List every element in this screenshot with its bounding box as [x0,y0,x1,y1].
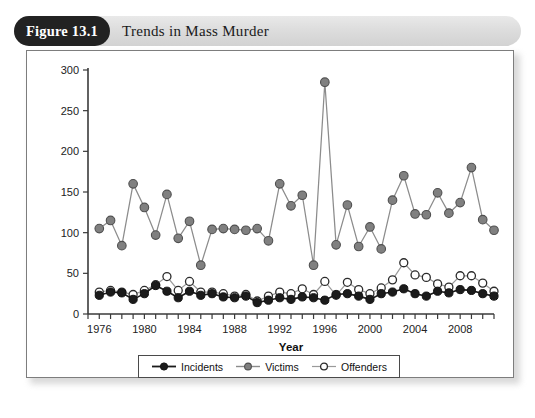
data-point-incidents [287,295,295,303]
data-point-incidents [343,290,351,298]
data-point-victims [242,226,251,235]
legend-label-incidents: Incidents [181,361,223,373]
legend-item-offenders: Offenders [311,361,387,373]
data-point-offenders [186,277,194,285]
data-point-offenders [343,278,351,286]
data-point-incidents [264,296,272,304]
data-point-victims [478,215,487,224]
data-point-incidents [174,294,182,302]
data-point-incidents [366,295,374,303]
data-point-offenders [298,285,306,293]
data-point-victims [422,210,431,219]
data-point-victims [467,163,476,172]
figure-title: Trends in Mass Murder [122,16,269,46]
data-point-offenders [411,271,419,279]
data-point-incidents [208,290,216,298]
data-point-offenders [422,273,430,281]
data-point-victims [321,78,330,87]
x-axis-tick-label: 1992 [267,323,291,335]
data-point-incidents [377,290,385,298]
data-point-incidents [129,295,137,303]
data-point-incidents [95,291,103,299]
x-axis-tick-label: 2004 [403,323,427,335]
data-point-victims [174,234,183,243]
data-point-victims [490,226,499,235]
data-point-incidents [445,289,453,297]
y-axis-tick-label: 200 [61,145,79,157]
data-point-incidents [400,285,408,293]
legend-label-offenders: Offenders [341,361,387,373]
data-point-victims [163,190,172,199]
line-chart: 0501001502002503001976198019841988199219… [26,50,514,378]
data-point-victims [445,209,454,218]
legend-marker-offenders [311,361,337,372]
y-axis-tick-label: 300 [61,64,79,76]
data-point-victims [219,224,228,233]
data-point-victims [287,202,296,211]
data-point-victims [253,224,262,233]
legend-marker-incidents [151,361,177,372]
data-point-incidents [479,290,487,298]
data-point-offenders [163,273,171,281]
data-point-incidents [219,293,227,301]
data-point-victims [377,245,386,254]
data-point-offenders [479,279,487,287]
data-point-victims [275,180,284,189]
data-point-victims [399,171,408,180]
data-point-incidents [456,286,464,294]
data-point-incidents [118,289,126,297]
data-point-incidents [242,292,250,300]
data-point-victims [264,237,273,246]
figure-number-badge: Figure 13.1 [14,16,110,46]
data-point-incidents [106,288,114,296]
legend-item-incidents: Incidents [151,361,223,373]
data-point-victims [95,224,104,233]
y-axis-tick-label: 50 [67,267,79,279]
data-point-incidents [467,286,475,294]
data-point-victims [309,261,318,270]
data-point-victims [343,201,352,210]
figure-container: Figure 13.1 Trends in Mass Murder 050100… [0,0,535,418]
x-axis-tick-label: 2008 [448,323,472,335]
data-point-victims [433,189,442,198]
y-axis-tick-label: 150 [61,186,79,198]
y-axis-tick-label: 100 [61,227,79,239]
data-point-victims [411,210,420,219]
data-point-incidents [140,290,148,298]
data-point-incidents [388,288,396,296]
data-point-victims [354,242,363,251]
data-point-incidents [276,294,284,302]
data-point-offenders [321,277,329,285]
data-point-incidents [355,292,363,300]
x-axis-tick-label: 2000 [358,323,382,335]
y-axis-tick-label: 250 [61,105,79,117]
legend-item-victims: Victims [235,361,299,373]
data-point-victims [332,241,341,250]
data-point-incidents [152,281,160,289]
x-axis-tick-label: 1988 [222,323,246,335]
data-point-victims [151,231,160,240]
data-point-victims [118,241,127,250]
data-point-offenders [467,272,475,280]
data-point-incidents [422,292,430,300]
chart-legend: Incidents Victims Offenders [138,355,400,378]
data-point-victims [230,225,239,234]
legend-marker-victims [235,361,261,372]
x-axis-title: Year [279,341,304,353]
data-point-incidents [185,287,193,295]
plot-area: 0501001502002503001976198019841988199219… [26,50,514,378]
data-point-offenders [389,276,397,284]
data-point-incidents [253,299,261,307]
data-point-incidents [411,290,419,298]
series-victims [95,78,498,270]
data-point-incidents [490,292,498,300]
data-point-incidents [321,296,329,304]
data-point-incidents [332,290,340,298]
data-point-victims [196,261,205,270]
data-point-victims [366,223,375,232]
data-point-victims [185,217,194,226]
x-axis-tick-label: 1980 [132,323,156,335]
x-axis-tick-label: 1996 [313,323,337,335]
x-axis-tick-label: 1984 [177,323,201,335]
x-axis-tick-label: 1976 [87,323,111,335]
